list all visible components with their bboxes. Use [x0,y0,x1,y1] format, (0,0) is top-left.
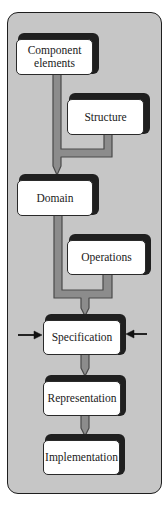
node-label: Component elements [16,39,93,75]
node-label: Operations [67,240,146,275]
node-label: Structure [67,99,144,135]
node-label: Specification [43,320,121,355]
arrow-left-pointing-icon [126,330,134,338]
node-label: Representation [43,381,121,416]
node-label: Domain [17,180,93,216]
pipe-specification-to-representation [81,354,89,376]
arrow-right-pointing-icon [34,331,42,339]
pipe-representation-to-implementation [81,415,89,436]
node-label: Implementation [43,440,120,475]
